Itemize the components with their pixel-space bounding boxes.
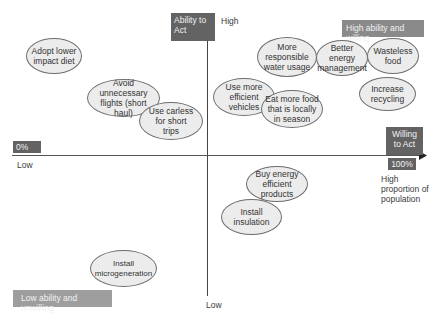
action-ellipse-water-usage: More responsible water usage	[257, 37, 317, 77]
action-label: Buy energy efficient products	[255, 169, 299, 199]
action-ellipse-adopt-lower-impact-diet: Adopt lower impact diet	[26, 38, 82, 74]
y-axis-low-label: Low	[206, 300, 222, 310]
quadrant-label-high: High ability and willing	[342, 20, 424, 37]
x-axis-max-badge-text: 100%	[391, 159, 413, 169]
x-axis-title-box: Willing to Act	[386, 127, 423, 155]
x-axis-high-label: High proportion of population	[381, 174, 433, 204]
action-ellipse-buy-energy-efficient: Buy energy efficient products	[246, 166, 308, 202]
action-label: Install microgeneration	[93, 259, 154, 279]
action-label: Eat more food that is locally in season	[265, 94, 319, 124]
action-ellipse-install-microgeneration: Install microgeneration	[90, 250, 157, 287]
action-label: Use carless for short trips	[148, 106, 194, 136]
x-axis-line	[12, 155, 422, 156]
action-ellipse-increase-recycling: Increase recycling	[359, 77, 416, 111]
y-axis-high-label: High	[221, 16, 238, 26]
quadrant-label-low: Low ability and unwilling	[13, 290, 112, 307]
action-label: Install insulation	[234, 207, 270, 227]
action-label: More responsible water usage	[262, 42, 312, 72]
action-label: Better energy management	[317, 43, 367, 73]
action-ellipse-install-insulation: Install insulation	[221, 199, 282, 235]
x-axis-title: Willing to Act	[392, 129, 417, 149]
action-label: Increase recycling	[370, 84, 405, 104]
action-ellipse-better-energy-management: Better energy management	[316, 40, 368, 76]
quadrant-label-low-text: Low ability and unwilling	[21, 293, 77, 313]
x-axis-low-label: Low	[17, 160, 33, 170]
y-axis-title: Ability to Act	[174, 15, 206, 35]
action-ellipse-eat-local-food: Eat more food that is locally in season	[261, 90, 323, 128]
action-ellipse-use-carless: Use carless for short trips	[139, 102, 203, 140]
x-axis-max-badge: 100%	[388, 158, 416, 170]
y-axis-line	[207, 36, 208, 296]
action-ellipse-wasteless-food: Wasteless food	[367, 38, 419, 74]
action-label: Adopt lower impact diet	[30, 46, 78, 66]
x-axis-min-badge-text: 0%	[16, 142, 28, 152]
action-label: Wasteless food	[374, 46, 413, 66]
y-axis-title-box: Ability to Act	[171, 13, 215, 41]
x-axis-min-badge: 0%	[13, 141, 41, 153]
